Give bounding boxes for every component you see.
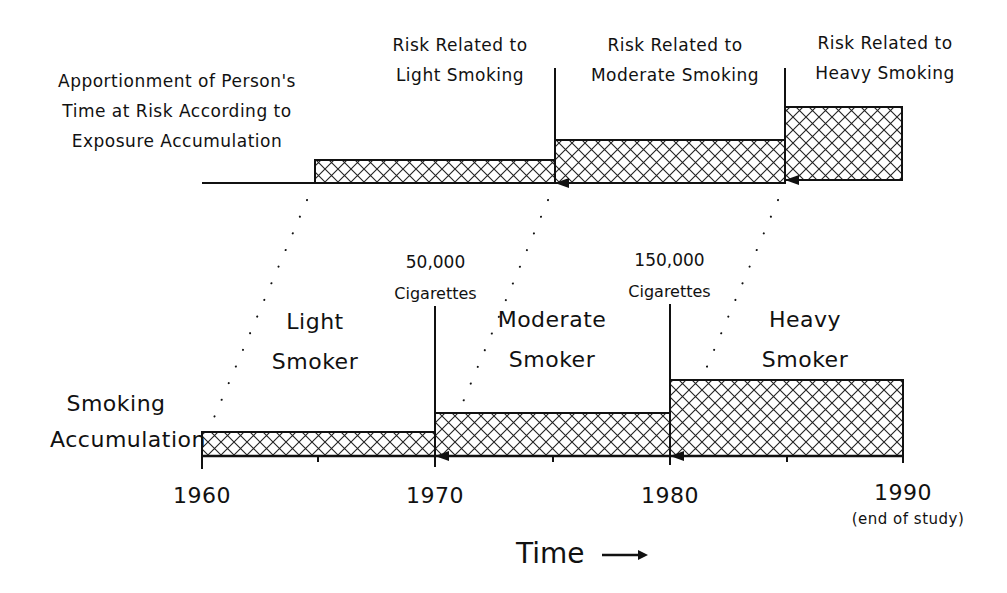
risk-label-light: Risk Related to Light Smoking — [360, 30, 560, 90]
bottom-heavy-segment — [670, 380, 903, 456]
threshold-50000: 50,000 Cigarettes — [378, 246, 493, 310]
top-light-segment — [315, 160, 555, 183]
top-heavy-segment — [785, 107, 902, 180]
bottom-light-segment — [202, 432, 435, 456]
year-1960: 1960 — [172, 483, 232, 508]
year-1990: 1990 — [873, 480, 933, 505]
year-1970: 1970 — [405, 483, 465, 508]
top-title: Apportionment of Person's Time at Risk A… — [32, 66, 322, 156]
end-of-study-note: (end of study) — [833, 510, 983, 528]
time-arrowhead — [638, 550, 648, 560]
smoker-label-heavy: Heavy Smoker — [745, 300, 865, 380]
y-axis-label: Smoking Accumulation — [26, 386, 206, 458]
x-axis-label: Time — [516, 537, 585, 570]
bottom-moderate-segment — [435, 413, 670, 456]
smoker-label-moderate: Moderate Smoker — [487, 300, 617, 380]
risk-label-heavy: Risk Related to Heavy Smoking — [795, 28, 975, 88]
year-1980: 1980 — [640, 483, 700, 508]
threshold-150000: 150,000 Cigarettes — [612, 244, 727, 308]
risk-label-moderate: Risk Related to Moderate Smoking — [570, 30, 780, 90]
top-moderate-segment — [555, 140, 785, 183]
smoker-label-light: Light Smoker — [255, 302, 375, 382]
